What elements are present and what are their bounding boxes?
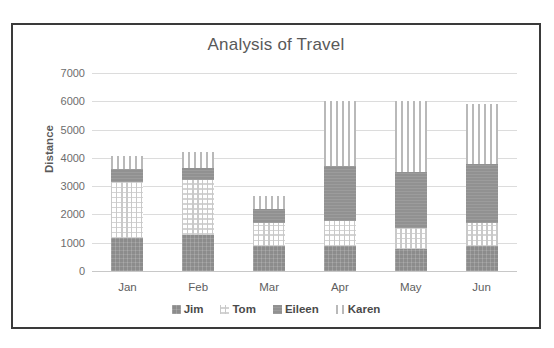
bar-segment-jim[interactable]: [182, 235, 214, 271]
bar-segment-eileen[interactable]: [111, 169, 143, 182]
bar-segment-karen[interactable]: [324, 101, 356, 166]
x-axis-tick-label: Apr: [305, 281, 376, 293]
bar-segment-karen[interactable]: [395, 101, 427, 171]
plot-area: 01000200030004000500060007000JanFebMarAp…: [92, 73, 517, 271]
bar-segment-karen[interactable]: [466, 104, 498, 163]
stacked-bar[interactable]: [111, 156, 143, 271]
y-axis-tick-label: 2000: [61, 208, 85, 220]
bar-group: Apr: [305, 73, 376, 271]
bar-group: Feb: [163, 73, 234, 271]
bar-segment-jim[interactable]: [111, 238, 143, 271]
y-axis-tick-label: 7000: [61, 67, 85, 79]
bar-segment-tom[interactable]: [395, 228, 427, 249]
stacked-bar[interactable]: [324, 101, 356, 271]
y-axis-tick-label: 6000: [61, 95, 85, 107]
bar-segment-eileen[interactable]: [182, 168, 214, 179]
bar-segment-eileen[interactable]: [466, 164, 498, 224]
x-axis-tick-label: May: [375, 281, 446, 293]
bar-segment-jim[interactable]: [466, 246, 498, 271]
bar-segment-karen[interactable]: [182, 152, 214, 169]
bar-segment-jim[interactable]: [395, 249, 427, 271]
bar-segment-karen[interactable]: [253, 196, 285, 209]
y-axis-tick-label: 3000: [61, 180, 85, 192]
bar-segment-tom[interactable]: [466, 223, 498, 246]
legend-item-karen[interactable]: Karen: [336, 303, 381, 315]
legend-label-karen: Karen: [348, 303, 381, 315]
y-axis-tick-label: 5000: [61, 124, 85, 136]
bar-group: Jun: [446, 73, 517, 271]
bar-segment-tom[interactable]: [324, 221, 356, 246]
y-axis-tick-label: 1000: [61, 237, 85, 249]
chart-title: Analysis of Travel: [13, 35, 539, 55]
legend-item-jim[interactable]: Jim: [172, 303, 204, 315]
x-axis-tick-label: Jan: [92, 281, 163, 293]
bar-segment-eileen[interactable]: [324, 166, 356, 221]
stacked-bar[interactable]: [395, 101, 427, 271]
legend-item-tom[interactable]: Tom: [220, 303, 255, 315]
stacked-bar[interactable]: [182, 152, 214, 271]
bar-segment-eileen[interactable]: [395, 172, 427, 228]
legend-item-eileen[interactable]: Eileen: [273, 303, 319, 315]
x-axis-tick-label: Mar: [234, 281, 305, 293]
x-axis-line: [92, 271, 517, 272]
legend-label-tom: Tom: [232, 303, 255, 315]
bar-group: May: [375, 73, 446, 271]
stacked-bar[interactable]: [253, 196, 285, 271]
bar-segment-jim[interactable]: [324, 246, 356, 271]
bar-segment-tom[interactable]: [182, 180, 214, 235]
x-axis-tick-label: Feb: [163, 281, 234, 293]
legend-swatch-icon-eileen: [273, 305, 282, 314]
y-axis-tick-label: 0: [79, 265, 85, 277]
bar-segment-eileen[interactable]: [253, 209, 285, 223]
chart-frame: Analysis of Travel Distance 010002000300…: [11, 23, 541, 329]
bar-segment-tom[interactable]: [253, 223, 285, 246]
legend-swatch-icon-tom: [220, 305, 229, 314]
bar-segment-tom[interactable]: [111, 182, 143, 239]
stacked-bar[interactable]: [466, 104, 498, 271]
bar-group: Jan: [92, 73, 163, 271]
legend-swatch-icon-karen: [336, 305, 345, 314]
chart-legend: Jim Tom Eileen Karen: [13, 303, 539, 315]
y-axis-title: Distance: [43, 125, 55, 173]
legend-swatch-icon-jim: [172, 305, 181, 314]
legend-label-eileen: Eileen: [285, 303, 319, 315]
bar-segment-karen[interactable]: [111, 156, 143, 170]
y-axis-tick-label: 4000: [61, 152, 85, 164]
bar-group: Mar: [234, 73, 305, 271]
x-axis-tick-label: Jun: [446, 281, 517, 293]
bar-segment-jim[interactable]: [253, 246, 285, 271]
legend-label-jim: Jim: [184, 303, 204, 315]
